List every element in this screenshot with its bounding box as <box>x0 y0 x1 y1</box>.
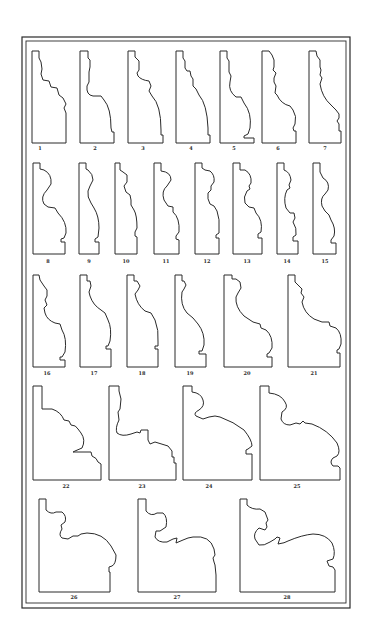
molding-profile-11 <box>154 163 179 254</box>
profile-number-label: 19 <box>180 370 200 376</box>
molding-profile-5 <box>220 51 254 143</box>
profile-number-label: 11 <box>156 258 176 264</box>
inner-frame-border <box>26 41 346 603</box>
profile-number-label: 21 <box>304 370 324 376</box>
molding-profile-4 <box>176 51 210 143</box>
molding-profile-27 <box>138 499 216 592</box>
profile-number-label: 28 <box>277 594 297 600</box>
molding-profiles <box>32 51 341 592</box>
molding-profile-20 <box>224 275 272 367</box>
profile-number-label: 20 <box>237 370 257 376</box>
molding-profile-9 <box>79 163 99 254</box>
profile-number-label: 2 <box>85 145 105 151</box>
profile-number-label: 13 <box>237 258 257 264</box>
profile-number-label: 3 <box>133 145 153 151</box>
profile-number-label: 16 <box>37 370 57 376</box>
molding-profile-8 <box>33 163 66 254</box>
profile-number-label: 8 <box>38 258 58 264</box>
profile-number-label: 4 <box>181 145 201 151</box>
molding-profile-14 <box>277 163 298 254</box>
profile-number-label: 6 <box>268 145 288 151</box>
molding-profile-23 <box>109 386 176 480</box>
molding-profile-2 <box>80 51 114 143</box>
profile-number-label: 7 <box>315 145 335 151</box>
profile-number-label: 12 <box>197 258 217 264</box>
profile-number-label: 26 <box>64 594 84 600</box>
molding-profile-15 <box>313 163 336 254</box>
profile-number-label: 27 <box>167 594 187 600</box>
molding-profile-1 <box>32 51 66 143</box>
profile-number-label: 23 <box>132 483 152 489</box>
molding-profiles-plate: 1234567891011121314151617181920212223242… <box>0 0 371 637</box>
profile-number-label: 17 <box>84 370 104 376</box>
profile-number-label: 10 <box>116 258 136 264</box>
profile-number-label: 22 <box>56 483 76 489</box>
molding-profile-19 <box>175 275 206 367</box>
molding-profile-22 <box>33 386 101 480</box>
profile-number-label: 15 <box>315 258 335 264</box>
molding-profile-26 <box>39 499 116 592</box>
molding-profile-13 <box>233 163 262 254</box>
molding-profile-17 <box>80 275 111 367</box>
profile-number-label: 1 <box>30 145 50 151</box>
plate-drawing <box>0 0 371 637</box>
molding-profile-7 <box>309 51 341 143</box>
profile-number-label: 9 <box>79 258 99 264</box>
profile-number-label: 24 <box>199 483 219 489</box>
molding-profile-10 <box>115 163 137 254</box>
molding-profile-21 <box>288 275 341 367</box>
molding-profile-28 <box>240 499 335 592</box>
profile-number-label: 5 <box>224 145 244 151</box>
outer-frame-border <box>22 37 350 608</box>
molding-profile-24 <box>183 386 252 480</box>
molding-profile-3 <box>128 51 163 143</box>
molding-profile-12 <box>195 163 219 254</box>
profile-number-label: 18 <box>132 370 152 376</box>
molding-profile-25 <box>260 386 340 480</box>
molding-profile-6 <box>262 51 296 143</box>
molding-profile-16 <box>33 275 66 367</box>
profile-number-label: 25 <box>287 483 307 489</box>
molding-profile-18 <box>127 275 158 367</box>
profile-number-label: 14 <box>277 258 297 264</box>
